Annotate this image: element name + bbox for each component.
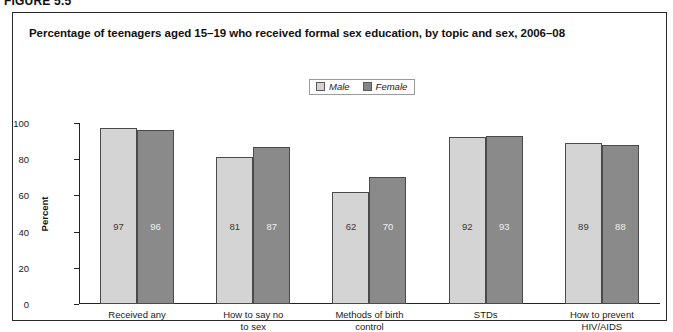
bar-value-label: 97 — [101, 222, 136, 232]
y-tick-label-100: 100 — [0, 118, 29, 129]
bar-value-label: 93 — [487, 222, 522, 232]
x-category-label-line: to sex — [195, 321, 311, 332]
y-tick-label-40: 40 — [0, 226, 29, 237]
x-category-label-line: How to say no — [195, 309, 311, 321]
bar-female[interactable]: 87 — [253, 147, 290, 304]
bar-male[interactable]: 89 — [565, 143, 602, 304]
x-category-label-line: HIV/AIDS — [544, 321, 660, 332]
x-category-label: Received any — [79, 309, 195, 321]
bar-group: 6270Methods of birthcontrol — [311, 123, 427, 304]
bar-female[interactable]: 96 — [137, 130, 174, 304]
bar-female[interactable]: 88 — [602, 145, 639, 304]
bar-pair: 6270 — [332, 177, 406, 304]
x-category-label-line: control — [311, 321, 427, 332]
x-category-label: How to preventHIV/AIDS — [544, 309, 660, 332]
y-tick-label-60: 60 — [0, 190, 29, 201]
bar-pair: 8187 — [216, 147, 290, 304]
plot-area: Percent 020406080100 9796Received any818… — [79, 123, 660, 304]
bar-male[interactable]: 92 — [449, 137, 486, 304]
legend-swatch-male — [316, 82, 325, 91]
bar-value-label: 70 — [370, 222, 405, 232]
x-category-label-line: How to prevent — [544, 309, 660, 321]
bar-value-label: 87 — [254, 222, 289, 232]
bar-pair: 9293 — [449, 136, 523, 304]
x-category-label: Methods of birthcontrol — [311, 309, 427, 332]
x-category-label: How to say noto sex — [195, 309, 311, 332]
y-tick-0 — [74, 304, 79, 305]
bar-group: 9293STDs — [428, 123, 544, 304]
bar-value-label: 96 — [138, 222, 173, 232]
legend-label-female: Female — [376, 82, 408, 92]
x-category-label-line: Methods of birth — [311, 309, 427, 321]
bar-value-label: 89 — [566, 222, 601, 232]
bar-value-label: 88 — [603, 222, 638, 232]
x-category-label-line: STDs — [428, 309, 544, 321]
chart-legend: Male Female — [309, 79, 415, 95]
bar-female[interactable]: 93 — [486, 136, 523, 304]
bar-group: 9796Received any — [79, 123, 195, 304]
bar-male[interactable]: 62 — [332, 192, 369, 304]
bar-pair: 8988 — [565, 143, 639, 304]
y-tick-label-80: 80 — [0, 154, 29, 165]
bar-value-label: 81 — [217, 222, 252, 232]
bar-male[interactable]: 81 — [216, 157, 253, 304]
bar-group: 8988How to preventHIV/AIDS — [544, 123, 660, 304]
bar-value-label: 92 — [450, 222, 485, 232]
figure-number: FIGURE 5.5 — [4, 0, 71, 8]
bar-group: 8187How to say noto sex — [195, 123, 311, 304]
bar-pair: 9796 — [100, 128, 174, 304]
bar-female[interactable]: 70 — [369, 177, 406, 304]
legend-label-male: Male — [329, 82, 350, 92]
y-tick-label-20: 20 — [0, 262, 29, 273]
x-category-label: STDs — [428, 309, 544, 321]
legend-swatch-female — [363, 82, 372, 91]
chart-title: Percentage of teenagers aged 15–19 who r… — [29, 27, 565, 39]
y-tick-label-0: 0 — [0, 299, 29, 310]
x-category-label-line: Received any — [79, 309, 195, 321]
legend-item-female: Female — [363, 82, 408, 92]
chart-panel: Percentage of teenagers aged 15–19 who r… — [12, 12, 667, 321]
bar-groups: 9796Received any8187How to say noto sex6… — [79, 123, 660, 304]
bar-male[interactable]: 97 — [100, 128, 137, 304]
bar-value-label: 62 — [333, 222, 368, 232]
y-axis-label: Percent — [39, 196, 50, 231]
legend-item-male: Male — [316, 82, 350, 92]
